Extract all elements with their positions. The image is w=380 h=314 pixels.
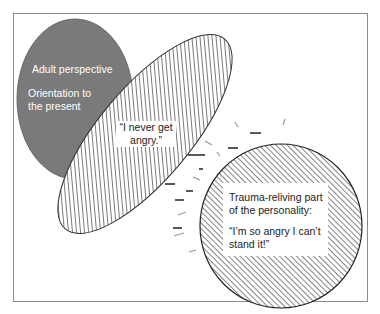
- trauma-title-line-1: Trauma-reliving part: [229, 191, 328, 204]
- orientation-label: Orientation to the present: [28, 87, 91, 113]
- avoidant-quote-line-1: “I never get: [116, 121, 176, 134]
- orientation-line-2: the present: [28, 100, 91, 113]
- personality-diagram: [0, 0, 380, 314]
- avoidant-quote-line-2: angry.”: [116, 134, 176, 147]
- trauma-quote-line-1: “I’m so angry I can’t: [229, 225, 328, 238]
- trauma-text-box: Trauma-reliving part of the personality:…: [223, 183, 328, 256]
- adult-perspective-label: Adult perspective: [32, 63, 113, 76]
- orientation-line-1: Orientation to: [28, 87, 91, 100]
- trauma-title-line-2: of the personality:: [229, 204, 328, 217]
- avoidant-quote-box: “I never get angry.”: [116, 121, 176, 147]
- trauma-quote-line-2: stand it!”: [229, 238, 328, 251]
